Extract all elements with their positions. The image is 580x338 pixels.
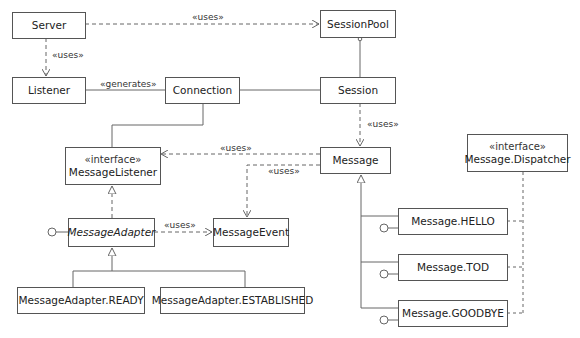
- class-message-event[interactable]: MessageEvent: [213, 218, 289, 247]
- stereotype: «interface»: [489, 140, 546, 153]
- class-name: Listener: [28, 84, 70, 97]
- class-name: Message: [332, 154, 378, 167]
- class-session[interactable]: Session: [320, 77, 396, 104]
- stereotype: «interface»: [85, 153, 142, 166]
- class-name: Message.HELLO: [411, 215, 494, 228]
- label-uses-server-listener: «uses»: [52, 50, 84, 60]
- generalization-established-adapter: [112, 271, 245, 287]
- class-name: MessageAdapter.READY: [18, 294, 143, 307]
- label-uses-server-sessionpool: «uses»: [192, 12, 224, 22]
- uml-class-diagram: «uses» «uses» «generates» «uses» «uses» …: [0, 0, 580, 338]
- label-uses-session-message: «uses»: [367, 119, 399, 129]
- class-name: MessageEvent: [213, 226, 289, 239]
- abstract-class-message-adapter[interactable]: MessageAdapter: [68, 218, 155, 247]
- class-name: SessionPool: [327, 18, 389, 31]
- lollipop-hello-icon: [380, 224, 388, 232]
- class-name: MessageListener: [69, 166, 157, 179]
- class-listener[interactable]: Listener: [12, 77, 86, 104]
- class-message[interactable]: Message: [320, 147, 391, 174]
- class-message-goodbye[interactable]: Message.GOODBYE: [398, 300, 508, 327]
- class-session-pool[interactable]: SessionPool: [320, 10, 396, 38]
- lollipop-adapter-icon: [48, 228, 56, 236]
- interface-message-listener[interactable]: «interface» MessageListener: [65, 147, 161, 185]
- lollipop-tod-icon: [380, 270, 388, 278]
- label-generates: «generates»: [100, 79, 156, 89]
- class-name: MessageAdapter: [68, 226, 156, 239]
- class-message-tod[interactable]: Message.TOD: [398, 254, 508, 281]
- class-name: Message.TOD: [417, 261, 489, 274]
- class-name: Message.GOODBYE: [402, 307, 504, 320]
- class-name: Session: [338, 84, 378, 97]
- class-message-adapter-established[interactable]: MessageAdapter.ESTABLISHED: [160, 287, 305, 314]
- class-name: Connection: [173, 84, 232, 97]
- label-uses-adapter-event: «uses»: [164, 220, 196, 230]
- generalization-ready-adapter: [73, 271, 112, 287]
- class-name: MessageAdapter.ESTABLISHED: [152, 294, 314, 307]
- class-message-adapter-ready[interactable]: MessageAdapter.READY: [17, 287, 145, 314]
- class-connection[interactable]: Connection: [165, 77, 240, 104]
- label-uses-message-event: «uses»: [268, 166, 300, 176]
- lollipop-goodbye-icon: [380, 316, 388, 324]
- label-uses-message-listener: «uses»: [220, 143, 252, 153]
- class-name: Message.Dispatcher: [464, 153, 570, 166]
- class-message-hello[interactable]: Message.HELLO: [398, 208, 508, 235]
- class-server[interactable]: Server: [12, 12, 86, 39]
- class-name: Server: [32, 19, 66, 32]
- association-connection-messagelistener: [112, 103, 203, 147]
- interface-message-dispatcher[interactable]: «interface» Message.Dispatcher: [467, 134, 568, 172]
